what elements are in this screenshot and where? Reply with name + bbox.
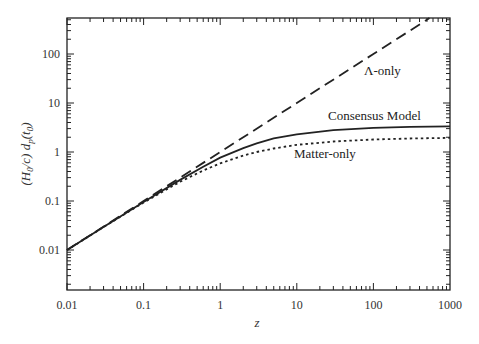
x-tick-label: 0.1 <box>136 298 151 312</box>
y-tick-label: 10 <box>48 96 60 110</box>
plot-frame <box>67 18 450 290</box>
x-tick-label: 1000 <box>438 298 462 312</box>
y-tick-label: 0.01 <box>39 243 60 257</box>
axis-ticks <box>67 18 450 290</box>
y-tick-labels: 0.010.1110100 <box>39 47 60 257</box>
chart: 0.010.11101001000 0.010.1110100 Λ-only C… <box>0 0 479 344</box>
curve-matter-only <box>67 138 450 250</box>
x-tick-label: 10 <box>291 298 303 312</box>
x-tick-labels: 0.010.11101001000 <box>57 298 463 312</box>
x-tick-label: 100 <box>364 298 382 312</box>
y-tick-label: 0.1 <box>45 194 60 208</box>
x-axis-title: z <box>253 315 259 330</box>
y-tick-label: 1 <box>54 145 60 159</box>
label-matter-only: Matter-only <box>294 146 356 161</box>
label-lambda-only: Λ-only <box>364 63 401 78</box>
x-tick-label: 1 <box>217 298 223 312</box>
x-tick-label: 0.01 <box>57 298 78 312</box>
y-axis-title: (H0/c) dp(t0) <box>18 122 35 185</box>
label-consensus-model: Consensus Model <box>328 108 421 123</box>
curves <box>67 18 450 250</box>
y-tick-label: 100 <box>42 47 60 61</box>
curve-consensus-model <box>67 126 450 250</box>
